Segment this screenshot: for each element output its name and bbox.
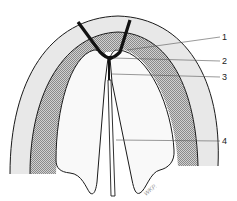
anatomical-diagram: 1 2 3 4 WKP. bbox=[0, 0, 237, 201]
narrow-tube bbox=[108, 80, 115, 196]
label-4: 4 bbox=[222, 136, 227, 146]
label-3: 3 bbox=[222, 72, 227, 82]
label-1: 1 bbox=[222, 32, 227, 42]
label-2: 2 bbox=[222, 56, 227, 66]
